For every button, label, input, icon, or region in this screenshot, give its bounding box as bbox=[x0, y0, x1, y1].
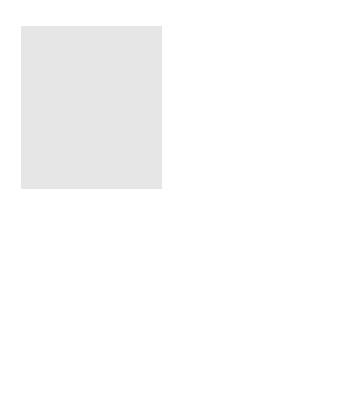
map-canvas bbox=[0, 0, 351, 411]
map-figure bbox=[0, 0, 351, 411]
